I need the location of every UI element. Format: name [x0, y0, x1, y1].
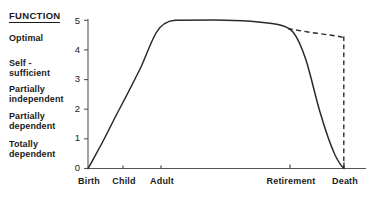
x-axis-ticks: [123, 162, 344, 169]
chart-plot-area: [0, 0, 369, 198]
function-vs-lifestage-chart: FUNCTION Optimal Self - sufficient Parti…: [0, 0, 369, 198]
y-axis-ticks: [84, 20, 88, 168]
function-decline-curve: [88, 20, 344, 169]
